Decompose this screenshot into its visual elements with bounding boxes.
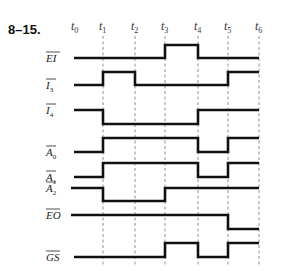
waveform-i4 <box>74 110 259 124</box>
signal-label-eo: EO <box>45 209 61 221</box>
signal-labels: EII3I4A0A1A2EOGS <box>45 52 61 263</box>
time-label-t5: t5 <box>224 19 231 35</box>
waveform-a2 <box>71 188 259 201</box>
time-label-t0: t0 <box>71 19 78 35</box>
waveform-i3 <box>74 72 259 85</box>
waveform-ei <box>74 45 259 58</box>
time-label-t1: t1 <box>99 19 106 35</box>
time-label-t2: t2 <box>131 19 138 35</box>
time-label-t4: t4 <box>194 19 201 35</box>
time-label-t3: t3 <box>161 19 168 35</box>
timing-diagram: 8–15. t0t1t2t3t4t5t6 EII3I4A0A1A2EOGS <box>0 0 281 271</box>
waveform-a0 <box>74 138 259 152</box>
waveform-a1 <box>74 163 259 177</box>
figure-number: 8–15. <box>8 22 41 37</box>
signal-label-gs: GS <box>46 251 60 263</box>
signal-label-i3: I3 <box>45 79 54 94</box>
time-label-t6: t6 <box>255 19 262 35</box>
signal-label-i4: I4 <box>45 104 54 119</box>
waveform-gs <box>74 243 259 257</box>
signal-label-ei: EI <box>45 52 58 64</box>
time-gridlines <box>103 36 259 266</box>
time-axis-labels: t0t1t2t3t4t5t6 <box>71 19 262 35</box>
waveform-eo <box>71 215 259 229</box>
signal-label-a0: A0 <box>45 146 57 161</box>
